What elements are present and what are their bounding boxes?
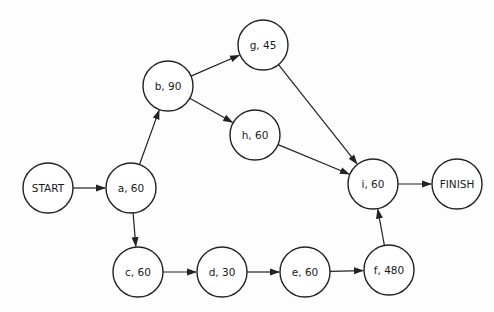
edge-b-to-h xyxy=(190,98,233,122)
arrow-icon xyxy=(279,65,357,164)
node-c: c, 60 xyxy=(113,247,163,297)
edge-a-to-b xyxy=(140,110,160,164)
edge-g-to-i xyxy=(279,65,357,164)
node-f: f, 480 xyxy=(364,245,414,295)
node-i: i, 60 xyxy=(348,159,398,209)
arrow-icon xyxy=(140,110,160,164)
node-label: FINISH xyxy=(440,178,475,190)
node-label: e, 60 xyxy=(292,266,319,278)
node-a: a, 60 xyxy=(106,163,156,213)
nodes-layer: STARTa, 60b, 90g, 45h, 60i, 60FINISHc, 6… xyxy=(23,20,482,297)
node-start: START xyxy=(23,163,73,213)
node-finish: FINISH xyxy=(432,159,482,209)
edge-a-to-c xyxy=(133,213,136,246)
edge-f-to-i xyxy=(378,210,385,246)
node-label: g, 45 xyxy=(250,39,277,51)
edge-b-to-g xyxy=(191,55,239,76)
node-h: h, 60 xyxy=(230,110,280,160)
node-label: f, 480 xyxy=(374,264,404,276)
arrow-icon xyxy=(330,271,363,272)
arrow-icon xyxy=(133,213,136,246)
node-e: e, 60 xyxy=(280,247,330,297)
node-label: START xyxy=(32,182,65,194)
activity-network-diagram: STARTa, 60b, 90g, 45h, 60i, 60FINISHc, 6… xyxy=(0,0,494,312)
edge-h-to-i xyxy=(278,145,349,174)
arrow-icon xyxy=(378,210,385,246)
node-label: a, 60 xyxy=(118,182,144,194)
node-d: d, 30 xyxy=(197,247,247,297)
diagram-canvas: STARTa, 60b, 90g, 45h, 60i, 60FINISHc, 6… xyxy=(0,0,494,312)
node-b: b, 90 xyxy=(143,61,193,111)
arrow-icon xyxy=(278,145,349,174)
node-label: i, 60 xyxy=(362,178,385,190)
node-label: b, 90 xyxy=(155,80,182,92)
node-g: g, 45 xyxy=(238,20,288,70)
arrow-icon xyxy=(190,98,233,122)
node-label: h, 60 xyxy=(242,129,269,141)
node-label: d, 30 xyxy=(209,266,236,278)
arrow-icon xyxy=(191,55,239,76)
edge-e-to-f xyxy=(330,271,363,272)
node-label: c, 60 xyxy=(125,266,151,278)
